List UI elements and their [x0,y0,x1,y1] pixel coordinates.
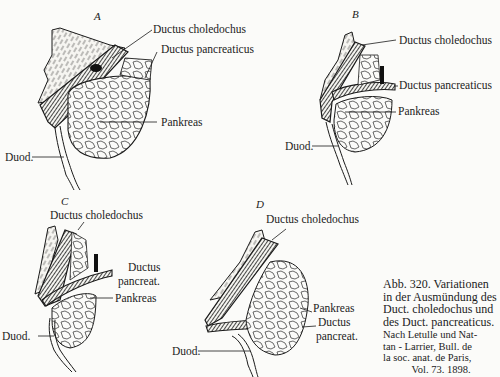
figure-d-label-pancreaticus-line1: Ductus [318,316,351,328]
caption-source-line: Vol. 73. 1898. [383,364,499,376]
figure-c-label-duodenum: Duod. [2,330,30,342]
figure-d-label-duodenum: Duod. [172,345,200,357]
caption-source-line: tan - Larrier, Bull. de [383,341,499,353]
caption-source-line: la soc. anat. de Paris, [383,352,499,364]
caption-source: Nach Letulle und Nat- tan - Larrier, Bul… [383,329,499,375]
figure-caption: Abb. 320. Variationen in der Ausmündung … [383,278,499,375]
figure-c-label-pancreaticus-line2: pancreat. [118,275,160,287]
figure-c-label-pankreas: Pankreas [115,292,157,304]
caption-source-line: Nach Letulle und Nat- [383,329,499,341]
figure-b-letter: B [352,8,359,20]
caption-title-line: Abb. 320. Variationen [383,278,499,291]
figure-d-label-pankreas: Pankreas [313,302,355,314]
figure-d-letter: D [256,198,264,210]
figure-a-letter: A [94,10,101,22]
figure-a-label-duodenum: Duod. [5,151,33,163]
figure-b-label-pankreas: Pankreas [398,105,440,117]
figure-a-label-choledochus: Ductus choledochus [153,23,246,35]
figure-b-label-choledochus: Ductus choledochus [399,34,492,46]
figure-c-label-choledochus: Ductus choledochus [50,209,143,221]
figure-d-label-pancreaticus-line2: pancreat. [316,330,358,342]
caption-title: Abb. 320. Variationen in der Ausmündung … [383,278,499,328]
figure-b-drawing [312,32,398,185]
figure-c-letter: C [61,195,68,207]
figure-a-label-pancreaticus: Ductus pancreaticus [161,43,254,55]
figure-b-label-duodenum: Duod. [285,140,313,152]
figure-b-label-pancreaticus: Ductus pancreaticus [399,79,492,91]
figure-c-drawing [35,222,113,372]
figure-a-drawing [32,28,157,190]
figure-d-drawing [198,229,316,377]
caption-title-line: Duct. choledochus und [383,303,499,316]
figure-a-label-pankreas: Pankreas [161,116,203,128]
figure-d-label-choledochus: Ductus choledochus [266,213,359,225]
figure-c-label-pancreaticus-line1: Ductus [128,261,161,273]
caption-title-line: des Duct. pancreaticus. [383,316,499,329]
